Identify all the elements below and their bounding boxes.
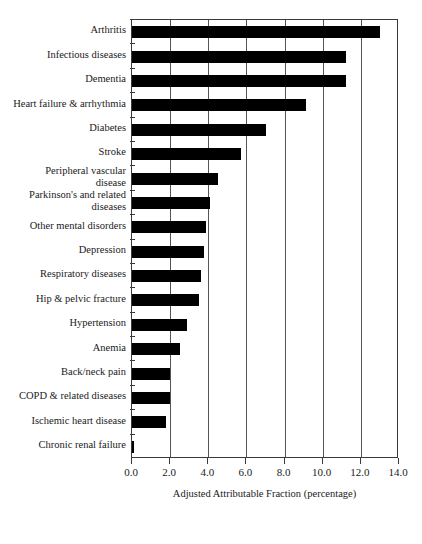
bar [132,75,346,87]
y-tick [130,385,135,386]
y-tick [130,92,135,93]
plot-area [131,19,398,458]
x-tick [398,458,399,464]
x-tick [131,458,132,464]
x-tick-label: 4.0 [187,466,227,478]
y-tick [130,43,135,44]
category-label: COPD & related diseases [6,390,126,402]
bar [132,270,201,282]
category-label: Depression [6,244,126,256]
bar [132,173,218,185]
x-tick-label: 14.0 [378,466,418,478]
category-label: Chronic renal failure [6,439,126,451]
bar [132,246,204,258]
category-label: Hip & pelvic fracture [6,293,126,305]
bar [132,392,170,404]
bar [132,294,199,306]
category-label: Parkinson's and relateddiseases [6,189,126,212]
x-tick-label: 0.0 [111,466,151,478]
x-tick-label: 2.0 [149,466,189,478]
x-tick [322,458,323,464]
bar [132,26,380,38]
x-tick [360,458,361,464]
x-tick-label: 10.0 [302,466,342,478]
y-tick [130,434,135,435]
category-label: Respiratory diseases [6,268,126,280]
y-tick [130,117,135,118]
category-label: Diabetes [6,122,126,134]
bar-chart: ArthritisInfectious diseasesDementiaHear… [0,0,422,544]
y-tick [130,239,135,240]
x-tick [245,458,246,464]
category-label: Heart failure & arrhythmia [6,98,126,110]
gridline [361,20,362,457]
category-label: Ischemic heart disease [6,415,126,427]
category-label: Hypertension [6,317,126,329]
category-label: Stroke [6,146,126,158]
category-label: Infectious diseases [6,49,126,61]
y-tick [130,287,135,288]
category-label: Anemia [6,342,126,354]
x-tick [207,458,208,464]
x-tick-label: 8.0 [264,466,304,478]
bar [132,51,346,63]
category-label: Peripheral vasculardisease [6,165,126,188]
bar [132,221,206,233]
y-tick [130,19,135,20]
y-tick [130,263,135,264]
category-label: Back/neck pain [6,366,126,378]
y-tick [130,336,135,337]
x-tick [284,458,285,464]
y-tick [130,360,135,361]
bar [132,441,134,453]
bar [132,197,210,209]
bar [132,148,241,160]
bar [132,124,266,136]
x-axis-title: Adjusted Attributable Fraction (percenta… [131,488,398,499]
x-tick-label: 12.0 [340,466,380,478]
category-label: Arthritis [6,24,126,36]
y-tick [130,312,135,313]
bar [132,319,187,331]
x-tick-label: 6.0 [225,466,265,478]
category-label: Other mental disorders [6,220,126,232]
y-tick [130,190,135,191]
bar [132,99,306,111]
x-tick [169,458,170,464]
y-tick [130,141,135,142]
y-tick [130,165,135,166]
bar [132,343,180,355]
y-tick [130,409,135,410]
bar [132,416,166,428]
y-tick [130,214,135,215]
bar [132,368,170,380]
category-label: Dementia [6,73,126,85]
y-tick [130,68,135,69]
